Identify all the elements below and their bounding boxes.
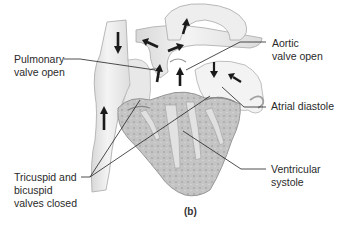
ventricles: [118, 92, 241, 196]
arrow-up-aortic-valve-icon: [176, 67, 184, 86]
label-ventricular-systole: Ventricular systole: [271, 163, 321, 189]
heart-diagram: Pulmonary valve open Aortic valve open A…: [0, 0, 350, 225]
label-pulmonary-valve-open: Pulmonary valve open: [14, 53, 65, 79]
panel-label: (b): [184, 205, 197, 218]
label-atrial-diastole: Atrial diastole: [271, 100, 334, 113]
label-av-valves-closed: Tricuspid and bicuspid valves closed: [14, 171, 77, 210]
label-aortic-valve-open: Aortic valve open: [272, 37, 323, 63]
